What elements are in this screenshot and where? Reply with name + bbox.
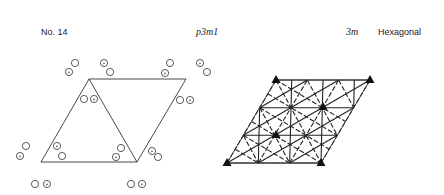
mirror-line [227,80,370,163]
threefold-axis-triangle-icon [366,75,375,83]
glide-line [339,80,354,108]
mirror-line [290,80,292,163]
symmetry-elements-diagram [0,0,444,195]
mirror-line [258,108,259,163]
threefold-axis-triangle-icon [317,158,326,166]
threefold-axis-triangle-icon [223,158,232,166]
mirror-line [354,80,355,108]
mirror-line [321,80,323,163]
threefold-axis-triangle-icon [272,75,281,83]
